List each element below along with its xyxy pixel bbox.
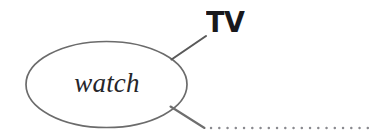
central-node-label: watch	[62, 70, 152, 97]
mind-map-diagram: watch TV	[0, 0, 373, 139]
branch-connector-tv-group	[172, 36, 207, 60]
branch-label-tv: TV	[206, 8, 244, 37]
branch-connector-tv[interactable]	[172, 36, 207, 60]
branch-connector-empty-group	[171, 107, 373, 129]
diagram-canvas	[0, 0, 373, 139]
branch-connector-empty[interactable]	[171, 107, 205, 129]
